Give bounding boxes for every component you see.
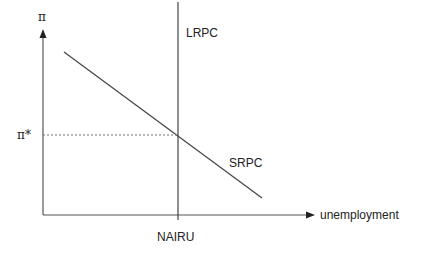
x-axis-label: unemployment: [320, 208, 399, 222]
y-axis-label: π: [38, 10, 46, 24]
x-axis-arrow-icon: [306, 212, 315, 219]
y-axis-arrow-icon: [40, 29, 47, 38]
pi-star-label: π*: [17, 128, 31, 142]
srpc-line: [64, 52, 262, 198]
lrpc-label: LRPC: [186, 26, 218, 40]
phillips-curve-diagram: π LRPC π* SRPC NAIRU unemployment: [0, 0, 421, 254]
srpc-label: SRPC: [229, 156, 262, 170]
nairu-label: NAIRU: [157, 230, 194, 244]
